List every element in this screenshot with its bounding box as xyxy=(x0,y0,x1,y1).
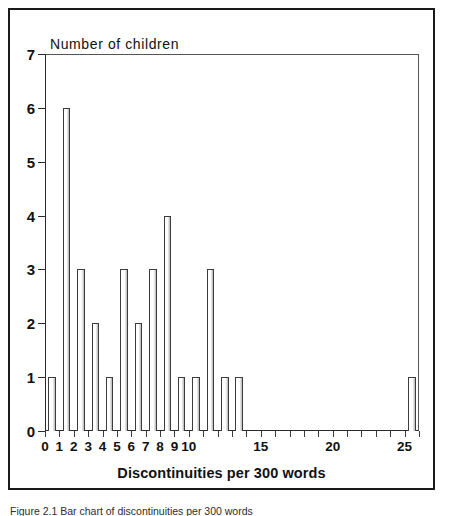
x-axis-tick-mark xyxy=(361,431,362,437)
x-axis-tick-mark xyxy=(304,431,305,437)
x-axis-tick-mark xyxy=(419,431,420,437)
x-axis-tick-mark xyxy=(347,431,348,437)
x-axis-tick-label: 8 xyxy=(156,440,164,454)
y-axis-tick-mark xyxy=(38,431,45,432)
bar xyxy=(207,269,214,431)
x-axis-tick-mark xyxy=(232,431,233,437)
x-axis-tick-label: 2 xyxy=(70,440,78,454)
y-axis-tick-label: 5 xyxy=(27,154,35,169)
x-axis-tick-label: 0 xyxy=(41,440,49,454)
x-axis-tick-mark xyxy=(261,431,262,437)
x-axis-tick-mark xyxy=(390,431,391,437)
y-axis-tick-label: 2 xyxy=(27,316,35,331)
y-axis-tick-mark xyxy=(38,216,45,217)
y-axis-tick-mark xyxy=(38,377,45,378)
x-axis-tick-label: 5 xyxy=(113,440,121,454)
bar xyxy=(235,377,242,431)
plot-box xyxy=(45,54,419,431)
x-axis-tick-mark xyxy=(74,431,75,437)
x-axis-tick-label: 9 xyxy=(171,440,179,454)
x-axis-tick-mark xyxy=(318,431,319,437)
x-axis-title: Discontinuities per 300 words xyxy=(10,465,433,481)
plot-area: 01234567 012345678910152025 xyxy=(45,54,419,431)
x-axis-tick-mark xyxy=(246,431,247,437)
y-axis-tick-mark xyxy=(38,54,45,55)
x-axis-tick-mark xyxy=(103,431,104,437)
x-axis-tick-mark xyxy=(45,431,46,437)
bar xyxy=(77,269,84,431)
bar xyxy=(48,377,55,431)
y-axis-tick-label: 1 xyxy=(27,370,35,385)
y-axis-tick-label: 3 xyxy=(27,262,35,277)
bar xyxy=(63,108,70,431)
bar xyxy=(106,377,113,431)
x-axis-tick-mark xyxy=(117,431,118,437)
bar xyxy=(120,269,127,431)
x-axis-tick-mark xyxy=(88,431,89,437)
bar xyxy=(178,377,185,431)
y-axis-tick-mark xyxy=(38,162,45,163)
x-axis-tick-mark xyxy=(160,431,161,437)
bar xyxy=(92,323,99,431)
x-axis-tick-mark xyxy=(275,431,276,437)
bar xyxy=(164,216,171,431)
x-axis-tick-label: 10 xyxy=(181,440,196,454)
x-axis-tick-mark xyxy=(203,431,204,437)
x-axis-tick-label: 15 xyxy=(253,440,268,454)
figure-caption: Figure 2.1 Bar chart of discontinuities … xyxy=(10,505,440,516)
y-axis-tick-label: 6 xyxy=(27,100,35,115)
y-axis-tick-mark xyxy=(38,323,45,324)
x-axis-tick-label: 6 xyxy=(128,440,136,454)
x-axis-tick-label: 1 xyxy=(56,440,64,454)
x-axis-tick-mark xyxy=(174,431,175,437)
y-axis-tick-mark xyxy=(38,269,45,270)
x-axis-tick-label: 25 xyxy=(397,440,412,454)
bar xyxy=(192,377,199,431)
x-axis-tick-mark xyxy=(189,431,190,437)
x-axis-tick-label: 20 xyxy=(325,440,340,454)
y-axis-tick-mark xyxy=(38,108,45,109)
x-axis-tick-label: 7 xyxy=(142,440,150,454)
bar xyxy=(221,377,228,431)
x-axis-tick-mark xyxy=(333,431,334,437)
x-axis-tick-mark xyxy=(290,431,291,437)
bar xyxy=(149,269,156,431)
chart-title: Number of children xyxy=(50,36,179,52)
x-axis-tick-mark xyxy=(405,431,406,437)
x-axis-tick-label: 3 xyxy=(84,440,92,454)
y-axis-tick-label: 7 xyxy=(27,47,35,62)
x-axis-tick-label: 4 xyxy=(99,440,107,454)
figure-frame: Number of children 01234567 012345678910… xyxy=(8,8,435,490)
x-axis-tick-mark xyxy=(376,431,377,437)
x-axis-tick-mark xyxy=(131,431,132,437)
y-axis-tick-label: 0 xyxy=(27,424,35,439)
x-axis-tick-mark xyxy=(218,431,219,437)
bar xyxy=(408,377,415,431)
y-axis-tick-label: 4 xyxy=(27,208,35,223)
x-axis-tick-mark xyxy=(146,431,147,437)
x-axis-tick-mark xyxy=(59,431,60,437)
bar xyxy=(135,323,142,431)
